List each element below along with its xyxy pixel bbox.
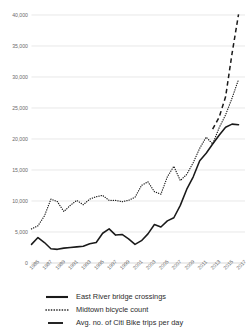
y-tick-label: 35,000 (12, 43, 28, 49)
legend-label-midtown: Midtown bicycle count (76, 305, 148, 314)
series-line-2 (213, 14, 239, 129)
x-tick-label: 1993 (80, 258, 92, 270)
y-tick-label: 25,000 (12, 105, 28, 111)
legend-label-citi-bike: Avg. no. of Citi Bike trips per day (76, 318, 183, 327)
legend-item-midtown: Midtown bicycle count (0, 303, 246, 316)
legend-label-east-river: East River bridge crossings (76, 292, 166, 301)
x-tick-label: 1985 (28, 258, 40, 270)
y-tick-label: 20,000 (12, 136, 28, 142)
y-tick-label: 5,000 (15, 229, 28, 235)
legend-item-east-river: East River bridge crossings (0, 290, 246, 303)
x-tick-label: 2015 (222, 258, 234, 270)
solid-line-key (45, 293, 69, 301)
x-tick-label: 1997 (106, 258, 118, 270)
x-tick-label: 2001 (131, 258, 143, 270)
y-tick-label: 40,000 (12, 12, 28, 18)
x-tick-label: 2017 (235, 258, 246, 270)
x-tick-label: 1989 (54, 258, 66, 270)
dashed-line-key (45, 319, 69, 327)
y-tick-label: 30,000 (12, 74, 28, 80)
x-tick-label: 2009 (183, 258, 195, 270)
x-axis-tick-labels: 1985198719891991199319951997199920012003… (28, 258, 246, 270)
x-tick-label: 2005 (157, 258, 169, 270)
data-series-group (32, 14, 239, 249)
dotted-line-key (45, 306, 69, 314)
x-tick-label: 1999 (119, 258, 131, 270)
y-tick-label: 15,000 (12, 167, 28, 173)
x-tick-label: 1991 (67, 258, 79, 270)
bicycle-ridership-line-chart: 05,00010,00015,00020,00025,00030,00035,0… (0, 0, 246, 330)
x-tick-label: 2007 (170, 258, 182, 270)
x-tick-label: 2013 (209, 258, 221, 270)
y-axis-tick-labels: 05,00010,00015,00020,00025,00030,00035,0… (12, 12, 28, 266)
chart-svg: 05,00010,00015,00020,00025,00030,00035,0… (0, 0, 246, 288)
legend-item-citi-bike: Avg. no. of Citi Bike trips per day (0, 316, 246, 329)
chart-legend: East River bridge crossings Midtown bicy… (0, 288, 246, 330)
x-tick-label: 2003 (144, 258, 156, 270)
y-tick-label: 10,000 (12, 198, 28, 204)
series-line-0 (32, 124, 239, 249)
series-line-1 (32, 79, 239, 228)
gridlines (32, 15, 246, 263)
x-tick-label: 1987 (41, 258, 53, 270)
x-tick-label: 1995 (93, 258, 105, 270)
plot-area: 05,00010,00015,00020,00025,00030,00035,0… (0, 0, 246, 288)
x-tick-label: 2011 (196, 259, 208, 271)
y-tick-label: 0 (25, 260, 28, 266)
